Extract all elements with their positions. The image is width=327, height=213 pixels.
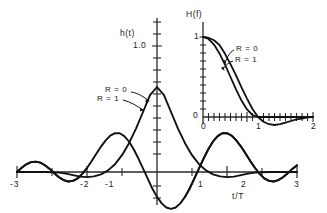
main-x-tick-label-minus3: -3 [10, 180, 19, 189]
inset-legend-label-r1: R = 1 [235, 56, 257, 64]
leader-r1-main [123, 100, 143, 110]
main-x-axis-label: t/T [232, 192, 244, 201]
inset-y-tick-label-0: 0 [193, 111, 198, 120]
main-x-tick-label-plus2: 2 [241, 180, 247, 189]
main-y-tick-label-1: 1.0 [133, 41, 146, 50]
main-legend-label-r0: R = 0 [105, 86, 127, 94]
inset-x-tick-label-2: 2 [311, 122, 317, 131]
chart-canvas [0, 0, 327, 213]
main-x-tick-label-plus3: 3 [294, 180, 300, 189]
main-legend-leaders [123, 92, 150, 112]
inset-y-axis-label: H(f) [186, 10, 202, 19]
inset-x-tick-label-1: 1 [256, 122, 262, 131]
inset-x-tick-label-0: 0 [201, 122, 207, 131]
main-x-tick-label-plus1: 1 [198, 180, 204, 189]
main-legend-label-r1: R = 1 [97, 95, 119, 103]
inset-background-mask [185, 6, 327, 128]
inset-y-tick-label-1: 1 [194, 32, 199, 41]
inset-legend-label-r0: R = 0 [236, 45, 258, 53]
figure-raised-cosine-response: h(t) 1.0 -3 -2 -1 1 2 3 t/T R = 0 R = 1 … [0, 0, 327, 213]
main-y-axis-label: h(t) [120, 29, 135, 38]
main-x-tick-label-minus1: -1 [105, 180, 114, 189]
main-x-tick-label-minus2: -2 [80, 180, 89, 189]
